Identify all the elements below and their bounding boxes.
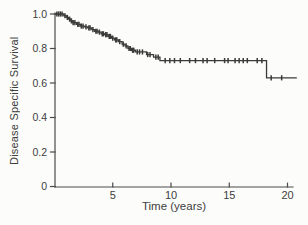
y-tick-label: 0.4 bbox=[32, 111, 47, 123]
y-tick-label: 0.6 bbox=[32, 77, 47, 89]
y-axis-title: Disease Specific Survival bbox=[7, 14, 21, 187]
survival-curve bbox=[55, 14, 297, 78]
y-tick-label: 1.0 bbox=[32, 8, 47, 20]
survival-figure: 1.00.80.60.40.205101520 Disease Specific… bbox=[0, 0, 308, 225]
kaplan-meier-chart: 1.00.80.60.40.205101520 bbox=[0, 0, 308, 225]
y-tick-label: 0 bbox=[41, 180, 47, 192]
y-tick-label: 0.8 bbox=[32, 42, 47, 54]
x-axis-title: Time (years) bbox=[55, 200, 293, 212]
y-tick-label: 0.2 bbox=[32, 146, 47, 158]
